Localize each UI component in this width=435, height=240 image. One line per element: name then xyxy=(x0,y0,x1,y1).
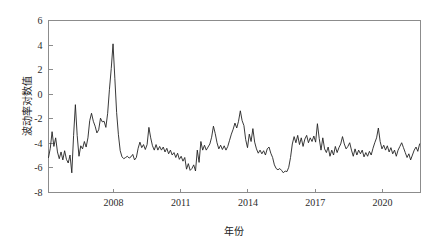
x-tick-label: 2014 xyxy=(238,197,258,208)
y-axis-title: 波动率对数值 xyxy=(21,76,33,136)
y-tick-label: -6 xyxy=(34,162,42,173)
x-axis-title: 年份 xyxy=(224,225,244,237)
x-tick-label: 2017 xyxy=(305,197,325,208)
y-tick-label: 4 xyxy=(38,40,43,51)
x-tick-label: 2020 xyxy=(372,197,392,208)
chart-background xyxy=(0,0,435,240)
y-tick-label: 6 xyxy=(38,15,43,26)
chart-figure: -8-6-4-20246 20082011201420172020 年份 波动率… xyxy=(0,0,435,240)
x-tick-label: 2008 xyxy=(103,197,123,208)
x-tick-label: 2011 xyxy=(171,197,191,208)
volatility-line-chart: -8-6-4-20246 20082011201420172020 年份 波动率… xyxy=(0,0,435,240)
y-tick-label: -2 xyxy=(34,113,42,124)
y-tick-label: -4 xyxy=(34,138,42,149)
y-tick-label: -8 xyxy=(34,187,42,198)
y-tick-label: 2 xyxy=(38,64,43,75)
y-tick-label: 0 xyxy=(38,89,43,100)
